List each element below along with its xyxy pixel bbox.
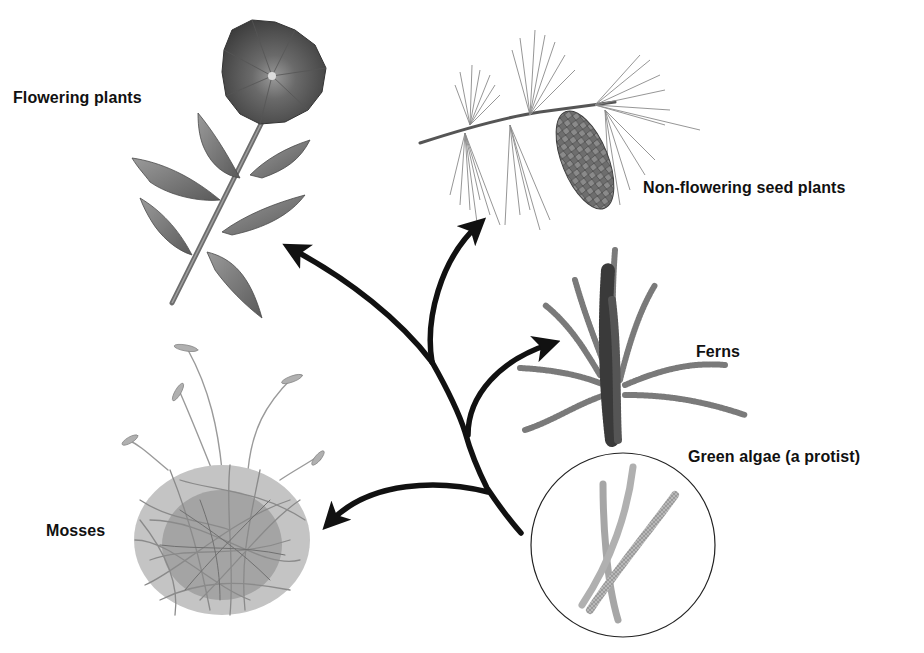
plant-evolution-diagram: Flowering plants Non-flowering seed plan…	[0, 0, 924, 653]
pine-branch-illustration	[420, 30, 700, 230]
evolution-arrows	[292, 225, 550, 533]
algae-circle-illustration	[531, 453, 715, 637]
flowering-arrow	[292, 249, 432, 362]
seed-plant-arrow	[430, 225, 478, 362]
label-non-flowering-seed-plants: Non-flowering seed plants	[643, 179, 846, 197]
fern-arrow	[468, 344, 550, 435]
label-green-algae: Green algae (a protist)	[688, 448, 860, 466]
moss-illustration	[121, 343, 326, 615]
label-mosses: Mosses	[46, 522, 105, 540]
label-flowering-plants: Flowering plants	[13, 89, 142, 107]
trunk-branch	[432, 362, 521, 533]
flower-illustration	[132, 20, 326, 318]
label-ferns: Ferns	[696, 343, 740, 361]
moss-arrow	[330, 485, 488, 522]
